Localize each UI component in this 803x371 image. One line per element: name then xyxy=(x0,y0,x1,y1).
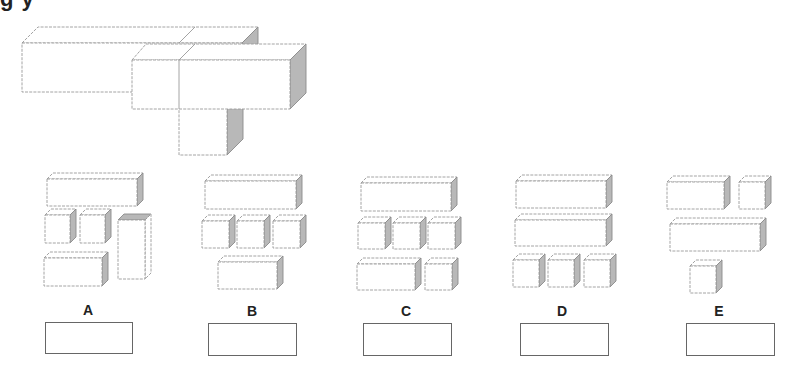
question-figure xyxy=(22,27,306,155)
option-b-pieces xyxy=(202,175,306,289)
answer-box-b[interactable] xyxy=(208,323,297,356)
option-a-pieces xyxy=(44,173,151,286)
answer-box-c[interactable] xyxy=(363,323,452,356)
option-a-label: A xyxy=(68,302,108,318)
answer-box-e[interactable] xyxy=(686,323,775,356)
option-b-label: B xyxy=(232,303,272,319)
option-c-label: C xyxy=(386,303,426,319)
answer-box-a[interactable] xyxy=(45,322,133,354)
option-e-label: E xyxy=(699,303,739,319)
option-d-pieces xyxy=(513,175,616,287)
answer-box-d[interactable] xyxy=(520,323,609,356)
option-c-pieces xyxy=(357,177,461,290)
option-e-pieces xyxy=(667,176,771,293)
option-d-label: D xyxy=(542,303,582,319)
